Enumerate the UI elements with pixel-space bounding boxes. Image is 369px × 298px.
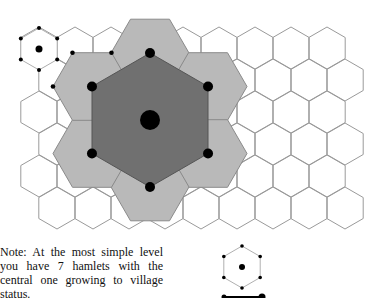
grid-hexagon <box>255 59 291 101</box>
hamlet-dot <box>87 149 97 159</box>
grid-hexagon <box>39 187 75 229</box>
legend-vertex-dot <box>222 276 226 280</box>
hamlet-vertex-dot <box>37 68 41 72</box>
hamlet-dot <box>203 149 213 159</box>
legend-line-end-dot <box>259 294 266 298</box>
grid-hexagon <box>237 91 273 133</box>
grid-hexagon <box>21 155 57 197</box>
grid-hexagon <box>327 187 363 229</box>
hamlet-vertex-dot <box>19 58 23 62</box>
grid-hexagon <box>309 155 345 197</box>
legend-vertex-dot <box>258 276 262 280</box>
grid-hexagon <box>273 155 309 197</box>
grid-hexagon <box>291 187 327 229</box>
grid-hexagon <box>327 123 363 165</box>
legend <box>222 244 266 298</box>
legend-vertex-dot <box>240 244 244 248</box>
grid-hexagon <box>219 187 255 229</box>
note-text: Note: At the most simple level you have … <box>0 245 163 298</box>
grid-hexagon <box>309 91 345 133</box>
grid-hexagon <box>273 91 309 133</box>
grid-hexagon <box>75 187 111 229</box>
hamlet-vertex-dot <box>55 37 59 41</box>
grid-hexagon <box>183 187 219 229</box>
village-dot <box>140 110 160 130</box>
legend-vertex-dot <box>222 255 226 259</box>
grid-hexagon <box>255 123 291 165</box>
grid-hexagon <box>255 187 291 229</box>
hamlet-dot <box>87 82 97 92</box>
minor-hamlet-dot <box>70 50 75 55</box>
hamlet-dot <box>145 182 155 192</box>
minor-hamlet-dot <box>51 84 56 89</box>
example-hamlet-hex <box>19 26 59 72</box>
grid-hexagon <box>237 27 273 69</box>
legend-vertex-dot <box>240 286 244 290</box>
legend-center-dot <box>239 264 245 270</box>
grid-hexagon <box>327 59 363 101</box>
minor-hamlet-dot <box>109 50 114 55</box>
hamlet-vertex-dot <box>37 26 41 30</box>
hamlet-vertex-dot <box>19 37 23 41</box>
legend-line-start-dot <box>222 295 227 298</box>
grid-hexagon <box>21 91 57 133</box>
hamlet-dot <box>203 82 213 92</box>
hamlet-vertex-dot <box>55 58 59 62</box>
grid-hexagon <box>309 27 345 69</box>
hamlet-dot <box>145 48 155 58</box>
hamlet-center-dot <box>36 46 43 53</box>
grid-hexagon <box>273 27 309 69</box>
legend-vertex-dot <box>258 255 262 259</box>
grid-hexagon <box>291 123 327 165</box>
grid-hexagon <box>291 59 327 101</box>
